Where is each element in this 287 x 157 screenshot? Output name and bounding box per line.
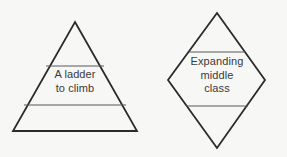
- diagram-canvas: A ladder to climb Expanding middle class: [0, 0, 287, 157]
- pyramid-label: A ladder to climb: [19, 68, 131, 95]
- diamond-label: Expanding middle class: [176, 55, 258, 96]
